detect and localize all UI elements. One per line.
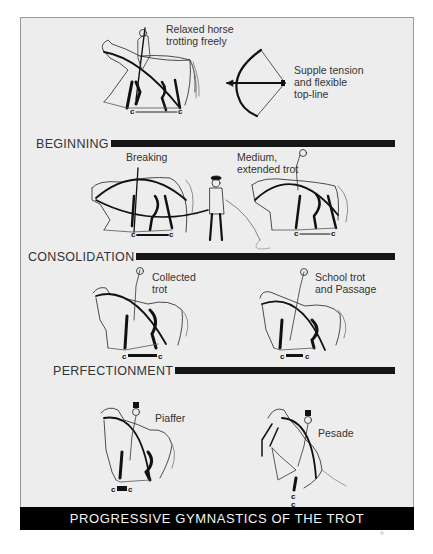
piaffer-label: Piaffer xyxy=(155,412,185,424)
section-beginning-header: BEGINNING xyxy=(36,137,395,150)
extended-trot-label: Medium, extended trot xyxy=(237,151,298,175)
svg-text:c: c xyxy=(305,352,310,361)
svg-text:c: c xyxy=(280,352,285,361)
section-title: BEGINNING xyxy=(36,137,109,151)
stride-mark: c xyxy=(130,107,135,116)
section-title: PERFECTIONMENT xyxy=(53,364,173,378)
svg-text:c: c xyxy=(294,229,299,238)
svg-text:c: c xyxy=(158,352,163,361)
pesade-horse-illustration xyxy=(262,409,346,490)
section-bar xyxy=(136,253,395,260)
bow-and-arrow-illustration xyxy=(227,50,285,116)
relaxed-horse-label: Relaxed horse trotting freely xyxy=(166,23,234,47)
svg-text:c: c xyxy=(178,107,183,116)
section-title: CONSOLIDATION xyxy=(28,250,134,264)
svg-text:c: c xyxy=(128,485,133,494)
breaking-label: Breaking xyxy=(126,151,167,163)
svg-text:c: c xyxy=(169,230,174,239)
section-bar xyxy=(111,140,395,147)
svg-text:c: c xyxy=(131,230,136,239)
section-consolidation-header: CONSOLIDATION xyxy=(28,250,395,263)
collected-trot-label: Collected trot xyxy=(152,271,196,295)
svg-text:c: c xyxy=(122,352,127,361)
section-perfectionment-header: PERFECTIONMENT xyxy=(53,364,395,377)
pesade-label: Pesade xyxy=(318,427,354,439)
scan-artifact xyxy=(380,531,384,535)
breaking-horse-illustration xyxy=(92,168,208,232)
diagram-title-caption: PROGRESSIVE GYMNASTICS OF THE TROT xyxy=(20,507,414,530)
svg-text:c: c xyxy=(331,229,336,238)
bow-label: Supple tension and flexible top-line xyxy=(294,64,363,100)
section-bar xyxy=(175,367,395,374)
passage-label: School trot and Passage xyxy=(315,271,376,295)
handler-figure-illustration xyxy=(210,176,270,249)
svg-text:c: c xyxy=(111,485,116,494)
